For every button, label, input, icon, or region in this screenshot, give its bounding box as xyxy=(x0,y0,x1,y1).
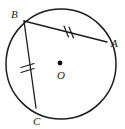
geometry-figure: B A C O xyxy=(0,0,125,129)
tick-mark-bc-1 xyxy=(21,64,34,68)
chord-b-to-a xyxy=(24,21,107,42)
geometry-canvas: B A C O xyxy=(0,0,125,129)
center-label-o: O xyxy=(57,69,65,81)
center-point-dot xyxy=(58,61,63,66)
point-label-a: A xyxy=(110,37,118,49)
point-label-b: B xyxy=(11,8,18,20)
tick-mark-bc-2 xyxy=(21,69,34,73)
point-label-c: C xyxy=(33,115,41,127)
